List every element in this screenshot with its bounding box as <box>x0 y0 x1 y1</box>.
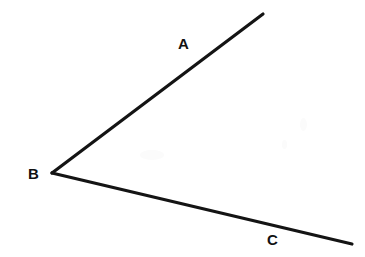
ray-b-to-a <box>52 14 263 173</box>
ray-b-to-c <box>52 173 352 244</box>
angle-diagram-canvas: A B C <box>0 0 365 257</box>
point-label-a: A <box>178 36 189 51</box>
point-label-c: C <box>267 232 278 247</box>
point-label-b: B <box>28 166 39 181</box>
